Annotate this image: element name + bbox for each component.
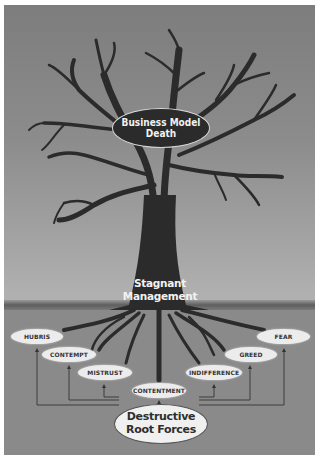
destructive-root-forces-label: Destructive Root Forces	[114, 404, 208, 444]
business-model-death-label: Business Model Death	[112, 108, 210, 148]
root-contempt: CONTEMPT	[42, 347, 96, 362]
diagram-panel: Business Model Death Stagnant Management…	[4, 5, 315, 455]
root-indifference: INDIFFERENCE	[186, 365, 242, 380]
root-hubris: HUBRIS	[11, 329, 63, 344]
root-contentment: CONTENTMENT	[132, 383, 186, 398]
stagnant-management-label: Stagnant Management	[120, 277, 200, 302]
root-fear: FEAR	[257, 329, 310, 344]
root-greed: GREED	[225, 347, 277, 362]
root-mistrust: MISTRUST	[78, 365, 132, 380]
